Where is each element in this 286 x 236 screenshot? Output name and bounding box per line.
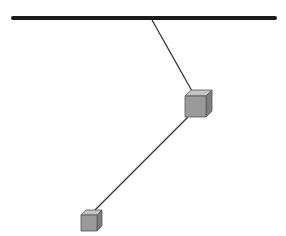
pendulum-diagram [0,0,286,236]
small-cube [81,210,102,231]
cube-front-face [81,215,97,231]
cube-front-face [185,96,206,117]
large-cube [185,90,212,117]
upper-string [152,20,192,91]
lower-string [92,117,188,213]
